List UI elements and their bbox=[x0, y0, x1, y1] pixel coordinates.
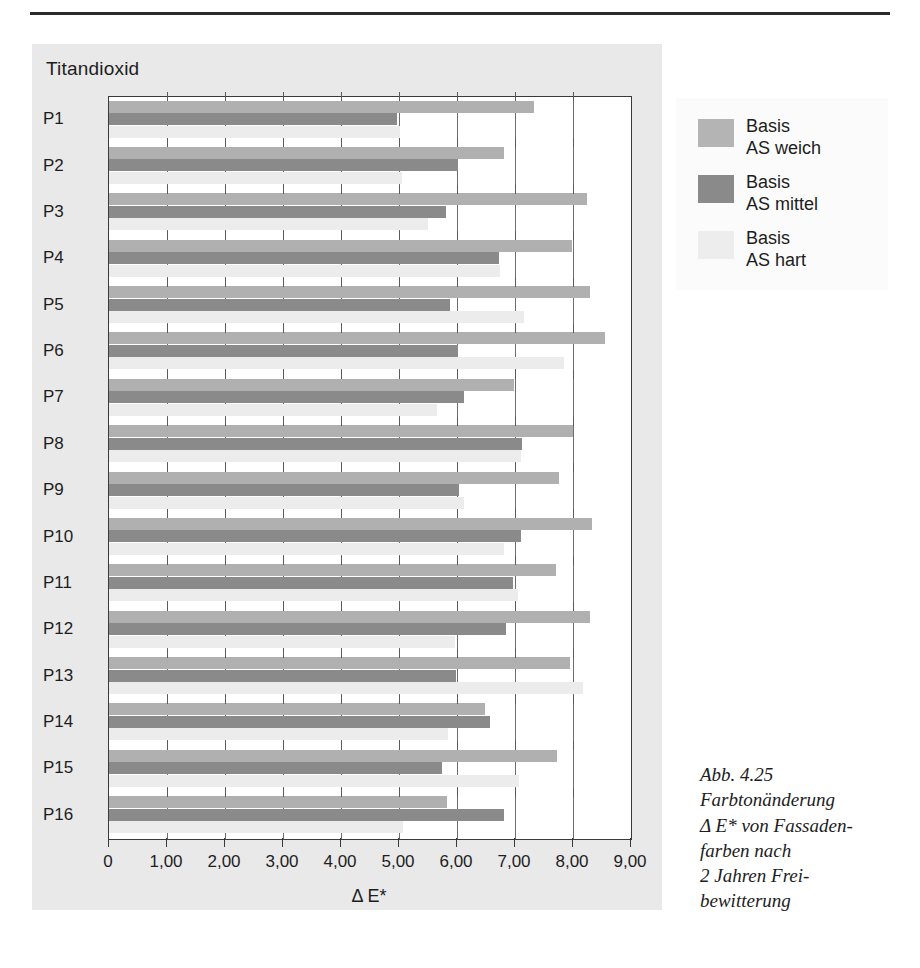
legend-item-mittel: BasisAS mittel bbox=[698, 172, 818, 216]
caption-line-4: farben nach bbox=[700, 838, 910, 863]
inner-tickmark bbox=[515, 509, 516, 518]
inner-tickmark bbox=[341, 417, 342, 426]
inner-tickmark bbox=[515, 556, 516, 565]
x-axis-tick-label: 1,00 bbox=[149, 852, 182, 872]
inner-tickmark bbox=[573, 556, 574, 565]
inner-tickmark bbox=[457, 417, 458, 426]
inner-tickmark bbox=[341, 185, 342, 194]
bar-p8-weich bbox=[109, 425, 573, 437]
bar-group: P5 bbox=[109, 283, 631, 329]
x-axis-tick-label: 6,00 bbox=[439, 852, 472, 872]
inner-tickmark bbox=[283, 231, 284, 240]
bar-group: P8 bbox=[109, 422, 631, 468]
inner-tickmark bbox=[573, 278, 574, 287]
x-axis-tickmark bbox=[108, 838, 109, 847]
inner-tickmark bbox=[167, 556, 168, 565]
y-axis-label-p11: P11 bbox=[43, 573, 103, 593]
bar-group: P4 bbox=[109, 236, 631, 282]
inner-tickmark bbox=[457, 278, 458, 287]
inner-tickmark bbox=[225, 741, 226, 750]
bar-p1-mittel bbox=[109, 113, 397, 125]
bar-p2-mittel bbox=[109, 159, 458, 171]
y-axis-label-p2: P2 bbox=[43, 156, 103, 176]
inner-tickmark bbox=[457, 185, 458, 194]
inner-tickmark bbox=[283, 556, 284, 565]
inner-tickmark bbox=[515, 370, 516, 379]
inner-tickmark bbox=[225, 185, 226, 194]
bar-group: P7 bbox=[109, 375, 631, 421]
inner-tickmark bbox=[573, 741, 574, 750]
bar-p10-weich bbox=[109, 518, 592, 530]
inner-tickmark bbox=[283, 649, 284, 658]
inner-tickmark bbox=[399, 231, 400, 240]
inner-tickmark bbox=[515, 278, 516, 287]
inner-tickmark bbox=[457, 649, 458, 658]
inner-tickmark bbox=[399, 556, 400, 565]
inner-tickmark bbox=[573, 695, 574, 704]
bar-group: P11 bbox=[109, 561, 631, 607]
bar-p5-weich bbox=[109, 286, 590, 298]
inner-tickmark bbox=[283, 324, 284, 333]
caption-line-1: Abb. 4.25 bbox=[700, 762, 910, 787]
bar-group: P12 bbox=[109, 607, 631, 653]
inner-tickmark bbox=[283, 788, 284, 797]
inner-tickmark bbox=[399, 185, 400, 194]
inner-tickmark bbox=[573, 509, 574, 518]
bar-p14-weich bbox=[109, 703, 485, 715]
bar-p3-weich bbox=[109, 193, 587, 205]
chart-legend: BasisAS weichBasisAS mittelBasisAS hart bbox=[676, 98, 888, 290]
inner-tickmark bbox=[167, 788, 168, 797]
inner-tickmark bbox=[341, 509, 342, 518]
inner-tickmark bbox=[573, 417, 574, 426]
inner-tickmark bbox=[283, 370, 284, 379]
x-axis-tickmark bbox=[514, 838, 515, 847]
bar-p7-weich bbox=[109, 379, 514, 391]
inner-tickmark bbox=[399, 370, 400, 379]
inner-tickmark bbox=[283, 463, 284, 472]
legend-label-weich: BasisAS weich bbox=[746, 116, 821, 160]
bar-p1-hart bbox=[109, 126, 400, 138]
bar-p15-mittel bbox=[109, 762, 442, 774]
bar-p6-weich bbox=[109, 332, 605, 344]
x-axis-tick-label: 3,00 bbox=[265, 852, 298, 872]
inner-tickmark bbox=[341, 138, 342, 147]
y-axis-label-p10: P10 bbox=[43, 527, 103, 547]
inner-tickmark bbox=[515, 231, 516, 240]
inner-tickmark bbox=[225, 509, 226, 518]
inner-tickmark bbox=[167, 370, 168, 379]
inner-tickmark bbox=[341, 92, 342, 101]
bar-p2-hart bbox=[109, 172, 402, 184]
bar-p4-hart bbox=[109, 265, 500, 277]
inner-tickmark bbox=[399, 602, 400, 611]
bar-p15-weich bbox=[109, 750, 557, 762]
plot-area: P1P2P3P4P5P6P7P8P9P10P11P12P13P14P15P16 bbox=[108, 96, 632, 840]
inner-tickmark bbox=[515, 463, 516, 472]
inner-tickmark bbox=[167, 509, 168, 518]
inner-tickmark bbox=[573, 602, 574, 611]
inner-tickmark bbox=[167, 278, 168, 287]
x-axis-tick-label: 9,00 bbox=[613, 852, 646, 872]
inner-tickmark bbox=[167, 649, 168, 658]
inner-tickmark bbox=[457, 556, 458, 565]
inner-tickmark bbox=[167, 695, 168, 704]
caption-line-6: bewitterung bbox=[700, 888, 910, 913]
inner-tickmark bbox=[515, 138, 516, 147]
inner-tickmark bbox=[225, 788, 226, 797]
inner-tickmark bbox=[399, 92, 400, 101]
y-axis-label-p4: P4 bbox=[43, 248, 103, 268]
caption-line-5: 2 Jahren Frei- bbox=[700, 863, 910, 888]
inner-tickmark bbox=[225, 556, 226, 565]
inner-tickmark bbox=[167, 138, 168, 147]
bar-p10-hart bbox=[109, 543, 504, 555]
x-axis-tickmark bbox=[224, 838, 225, 847]
inner-tickmark bbox=[225, 695, 226, 704]
inner-tickmark bbox=[341, 370, 342, 379]
page-top-rule bbox=[30, 12, 890, 15]
bar-p7-hart bbox=[109, 404, 437, 416]
bar-p5-mittel bbox=[109, 299, 450, 311]
legend-label-line1: Basis bbox=[746, 228, 806, 250]
inner-tickmark bbox=[573, 138, 574, 147]
bar-group: P15 bbox=[109, 746, 631, 792]
legend-label-line1: Basis bbox=[746, 172, 818, 194]
inner-tickmark bbox=[399, 649, 400, 658]
